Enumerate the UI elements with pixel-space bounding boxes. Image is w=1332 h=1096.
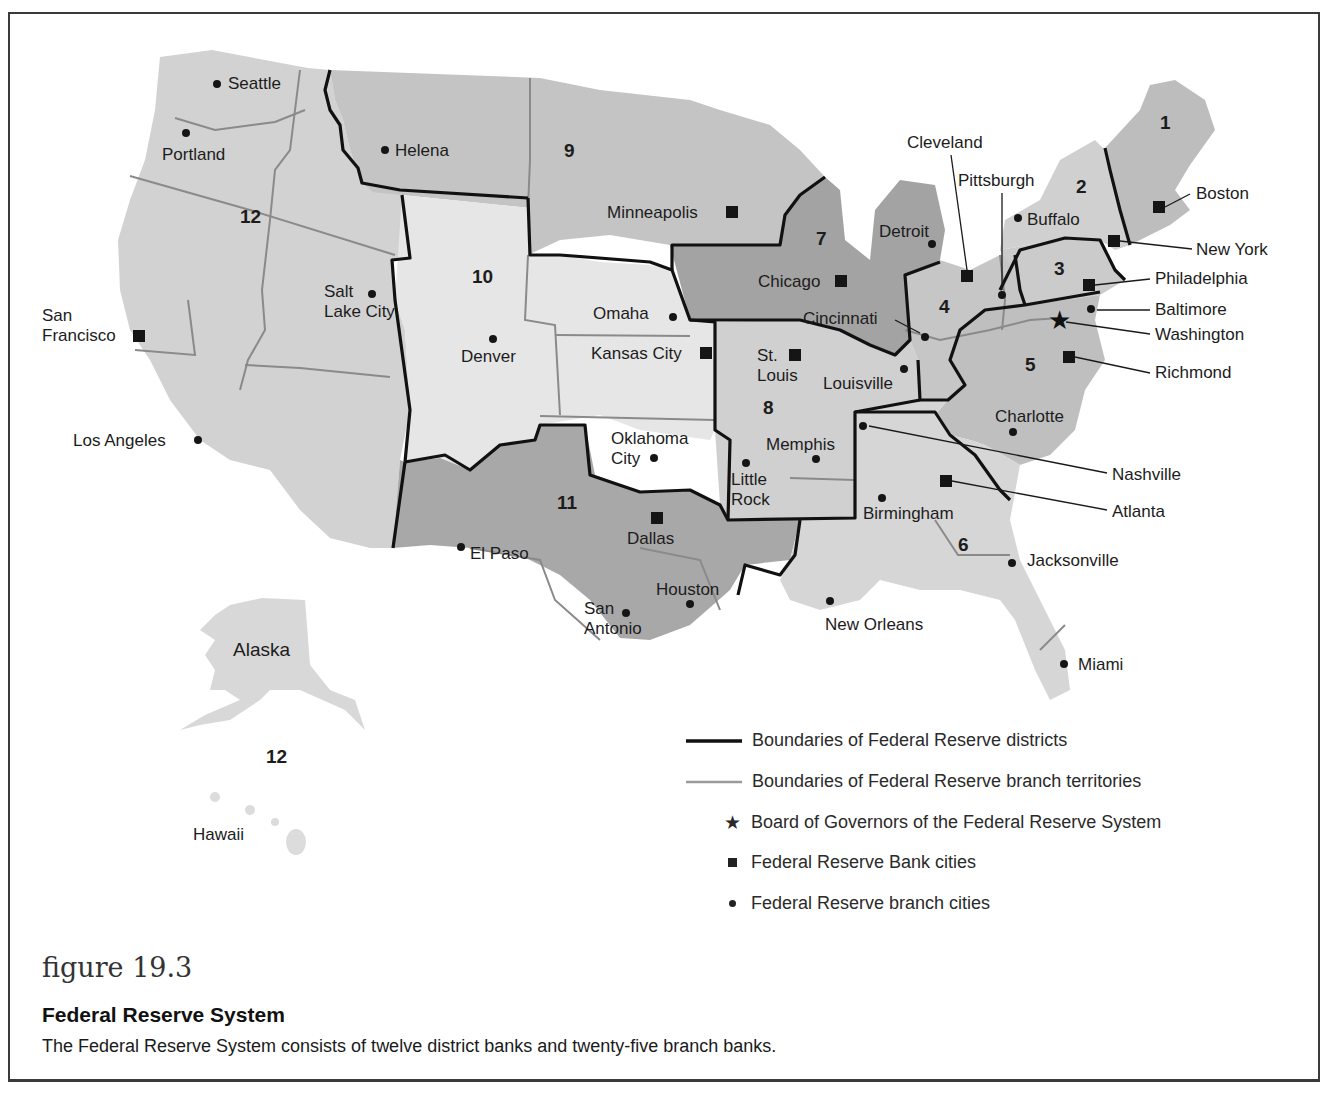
city-label: Boston <box>1196 184 1249 204</box>
branch-city-dot-icon <box>826 597 834 605</box>
branch-city-dot-icon <box>742 459 750 467</box>
alaska-shape <box>180 598 365 730</box>
legend-label: Boundaries of Federal Reserve branch ter… <box>752 771 1141 792</box>
bank-city-square-icon <box>700 347 712 359</box>
city-label: Richmond <box>1155 363 1232 383</box>
district-number-1: 1 <box>1160 112 1171 134</box>
territory-label-hawaii: Hawaii <box>193 825 244 845</box>
star-icon: ★ <box>724 811 744 834</box>
city-label: Cincinnati <box>803 309 878 329</box>
branch-city-dot-icon <box>457 543 465 551</box>
district-number-2: 2 <box>1076 176 1087 198</box>
branch-city-dot-icon <box>921 333 929 341</box>
city-label: Louisville <box>823 374 893 394</box>
branch-city-dot-icon <box>1060 660 1068 668</box>
bank-city-square-icon <box>133 330 145 342</box>
hawaii-islands <box>210 792 306 855</box>
branch-city-dot-icon <box>900 365 908 373</box>
district-number-12: 12 <box>240 206 261 228</box>
city-label: Helena <box>395 141 449 161</box>
city-label: El Paso <box>470 544 529 564</box>
branch-city-dot-icon <box>878 494 886 502</box>
district-number-11: 11 <box>557 492 577 514</box>
figure-caption: The Federal Reserve System consists of t… <box>42 1036 776 1057</box>
city-label: Pittsburgh <box>958 171 1035 191</box>
city-label: Cleveland <box>907 133 983 153</box>
branch-city-dot-icon <box>928 240 936 248</box>
city-label: Portland <box>162 145 225 165</box>
district-number-3: 3 <box>1054 258 1065 280</box>
bank-city-square-icon <box>1083 279 1095 291</box>
branch-city-dot-icon <box>381 146 389 154</box>
city-label: Washington <box>1155 325 1244 345</box>
branch-city-dot-icon <box>1014 214 1022 222</box>
bank-city-square-icon <box>961 270 973 282</box>
district-number-9: 9 <box>564 140 575 162</box>
city-label: Baltimore <box>1155 300 1227 320</box>
branch-city-dot-icon <box>998 291 1006 299</box>
legend-label: Boundaries of Federal Reserve districts <box>752 730 1067 751</box>
branch-city-dot-icon <box>489 335 497 343</box>
district-number-12: 12 <box>266 746 287 768</box>
bank-city-square-icon <box>940 475 952 487</box>
city-label: Nashville <box>1112 465 1181 485</box>
city-label: Seattle <box>228 74 281 94</box>
bank-city-square-icon <box>651 512 663 524</box>
branch-city-dot-icon <box>812 455 820 463</box>
city-label: Minneapolis <box>607 203 698 223</box>
legend-item-district-boundaries: Boundaries of Federal Reserve districts <box>686 730 1067 751</box>
city-label: Jacksonville <box>1027 551 1119 571</box>
city-label: Detroit <box>879 222 929 242</box>
branch-city-dot-icon <box>1008 559 1016 567</box>
city-label: Chicago <box>758 272 820 292</box>
city-label: Omaha <box>593 304 649 324</box>
figure-title: Federal Reserve System <box>42 1003 285 1027</box>
city-label: Memphis <box>766 435 835 455</box>
city-label: New York <box>1196 240 1268 260</box>
city-label: Kansas City <box>591 344 682 364</box>
city-label: Atlanta <box>1112 502 1165 522</box>
city-label: Los Angeles <box>73 431 166 451</box>
board-star-icon: ★ <box>1048 306 1071 334</box>
city-label: Little Rock <box>731 470 770 510</box>
branch-city-dot-icon <box>182 129 190 137</box>
bank-city-square-icon <box>1108 235 1120 247</box>
city-label: Birmingham <box>863 504 954 524</box>
district-boundary-line-icon <box>686 736 744 746</box>
city-label: Denver <box>461 347 516 367</box>
city-label: San Antonio <box>584 599 642 639</box>
bank-city-square-icon <box>835 275 847 287</box>
branch-city-dot-icon <box>213 80 221 88</box>
district-number-10: 10 <box>472 266 493 288</box>
branch-city-dot-icon <box>194 436 202 444</box>
legend-label: Board of Governors of the Federal Reserv… <box>751 812 1161 833</box>
branch-boundary-line-icon <box>686 777 744 787</box>
city-label: Philadelphia <box>1155 269 1248 289</box>
district-number-4: 4 <box>939 296 950 318</box>
branch-city-dot-icon <box>686 600 694 608</box>
legend-item-branch-boundaries: Boundaries of Federal Reserve branch ter… <box>686 771 1141 792</box>
figure-number: figure 19.3 <box>42 952 192 983</box>
bank-city-square-icon <box>1153 201 1165 213</box>
city-label: San Francisco <box>42 306 116 346</box>
city-label: Miami <box>1078 655 1123 675</box>
city-label: Charlotte <box>995 407 1064 427</box>
city-label: St. Louis <box>757 346 798 386</box>
legend-label: Federal Reserve branch cities <box>751 893 990 914</box>
city-label: Houston <box>656 580 719 600</box>
district-number-8: 8 <box>763 397 774 419</box>
bank-city-square-icon <box>1063 351 1075 363</box>
district-number-5: 5 <box>1025 354 1036 376</box>
legend-item-bank-cities: Federal Reserve Bank cities <box>728 852 976 873</box>
city-label: Dallas <box>627 529 674 549</box>
legend-label: Federal Reserve Bank cities <box>751 852 976 873</box>
district-number-6: 6 <box>958 534 969 556</box>
city-label: New Orleans <box>825 615 923 635</box>
bank-city-square-icon <box>726 206 738 218</box>
branch-city-dot-icon <box>1087 305 1095 313</box>
square-icon <box>728 858 737 867</box>
city-label: Oklahoma City <box>611 429 688 469</box>
territory-label-alaska: Alaska <box>233 640 290 660</box>
city-label: Buffalo <box>1027 210 1080 230</box>
legend-item-board: ★ Board of Governors of the Federal Rese… <box>724 811 1161 834</box>
